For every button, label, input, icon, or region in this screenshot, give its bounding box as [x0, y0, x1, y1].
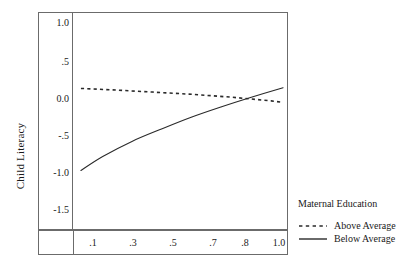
y-axis-tick-label: -1.5 [39, 205, 69, 215]
plot-canvas [73, 13, 287, 229]
y-axis-tick-label: 0.0 [39, 94, 69, 104]
chart-plot-block: 1.0 .5 0.0 -.5 -1.0 -1.5 .1 .3 .5 .7 .8 … [38, 12, 288, 255]
x-axis-tick-strip: .1 .3 .5 .7 .8 1.0 [38, 230, 288, 255]
y-axis-title: Child Literacy [14, 96, 26, 216]
y-axis-tick-label: -.5 [39, 131, 69, 141]
legend-dashed-line-icon [298, 221, 328, 231]
series-line-above-average [81, 88, 283, 102]
legend-label: Above Average [334, 220, 396, 231]
x-axis-tick-label: 1.0 [273, 238, 286, 248]
plot-area [72, 12, 288, 230]
x-axis-tick-label: .1 [89, 238, 97, 248]
y-axis-tick-label: 1.0 [39, 18, 69, 28]
legend-item-above-average: Above Average [298, 219, 416, 232]
legend-label: Below Average [334, 233, 395, 244]
x-axis-strip-divider [73, 231, 74, 254]
legend-title: Maternal Education [298, 198, 416, 210]
legend: Maternal Education Above Average Below A… [298, 198, 416, 245]
series-line-below-average [81, 88, 283, 171]
x-axis-tick-label: .3 [129, 238, 137, 248]
chart-figure: Child Literacy 1.0 .5 0.0 -.5 -1.0 -1.5 … [0, 0, 419, 279]
legend-item-below-average: Below Average [298, 232, 416, 245]
x-axis-tick-label: .7 [209, 238, 217, 248]
y-axis-tick-column: 1.0 .5 0.0 -.5 -1.0 -1.5 [38, 12, 72, 230]
x-axis-tick-label: .5 [169, 238, 177, 248]
y-axis-tick-label: .5 [39, 57, 69, 67]
x-axis-tick-label: .8 [241, 238, 249, 248]
legend-solid-line-icon [298, 234, 328, 244]
y-axis-tick-label: -1.0 [39, 168, 69, 178]
